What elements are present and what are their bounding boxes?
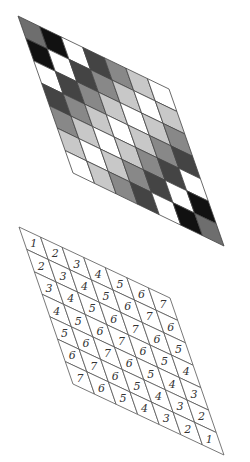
cell-value-label: 6 (98, 382, 105, 395)
cell-value-label: 5 (89, 302, 96, 315)
cell-value-label: 6 (167, 321, 174, 334)
cell-value-label: 7 (118, 335, 125, 348)
cell-value-label: 5 (75, 315, 82, 328)
cell-value-label: 2 (197, 410, 205, 423)
cell-value-label: 4 (168, 378, 176, 391)
cell-value-label: 3 (163, 412, 170, 425)
cell-value-label: 4 (94, 268, 102, 281)
cell-value-label: 7 (132, 323, 139, 336)
cell-value-label: 6 (124, 300, 131, 313)
cell-value-label: 1 (30, 237, 37, 250)
shaded-rhombus-grid (18, 16, 224, 246)
cell-value-label: 3 (177, 400, 184, 413)
cell-value-label: 2 (51, 247, 59, 260)
cell-value-label: 5 (103, 290, 110, 303)
cell-value-label: 4 (182, 365, 190, 378)
cell-value-label: 7 (104, 347, 111, 360)
cell-value-label: 4 (80, 280, 88, 293)
cell-value-label: 7 (76, 372, 83, 385)
cell-value-label: 7 (160, 298, 167, 311)
cell-value-label: 5 (175, 343, 182, 356)
cell-value-label: 6 (138, 288, 145, 301)
cell-value-label: 6 (96, 325, 103, 338)
cell-value-label: 7 (146, 310, 153, 323)
cell-value-label: 4 (154, 390, 162, 403)
cell-value-label: 4 (52, 305, 60, 318)
cell-value-label: 6 (126, 357, 133, 370)
cell-value-label: 7 (90, 360, 97, 373)
cell-value-label: 6 (69, 349, 76, 362)
figure-canvas: 1234567234567634567654567654567654367654… (0, 0, 250, 462)
cell-value-label: 5 (120, 392, 127, 405)
cell-value-label: 2 (37, 260, 45, 273)
cell-value-label: 3 (46, 282, 53, 295)
cell-value-label: 3 (190, 388, 197, 401)
cell-value-label: 2 (183, 423, 191, 436)
cell-value-label: 5 (116, 278, 123, 291)
cell-value-label: 5 (147, 368, 154, 381)
cell-value-label: 1 (206, 433, 213, 446)
numbered-rhombus-grid: 1234567234567634567654567654567654367654… (19, 227, 224, 455)
cell-value-label: 4 (140, 402, 148, 415)
cell-value-label: 4 (66, 292, 74, 305)
cell-value-label: 6 (110, 313, 117, 326)
cell-value-label: 5 (161, 355, 168, 368)
cell-value-label: 5 (61, 327, 68, 340)
cell-value-label: 6 (83, 337, 90, 350)
cell-value-label: 3 (59, 270, 66, 283)
cell-value-label: 6 (112, 370, 119, 383)
cell-value-label: 6 (153, 333, 160, 346)
cell-value-label: 3 (73, 258, 80, 271)
cell-value-label: 5 (133, 380, 140, 393)
cell-value-label: 6 (140, 345, 147, 358)
